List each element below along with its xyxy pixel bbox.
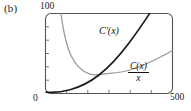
marginal-cost-label: C'(x) bbox=[99, 25, 119, 36]
figure-panel-b: (b) 100 0 500 C'(x) C(x) x bbox=[0, 0, 191, 111]
plot-area bbox=[0, 0, 191, 111]
average-cost-curve bbox=[61, 14, 172, 75]
average-cost-label: C(x) x bbox=[128, 62, 149, 84]
average-cost-numerator: C(x) bbox=[128, 62, 149, 73]
average-cost-denominator: x bbox=[128, 73, 149, 83]
